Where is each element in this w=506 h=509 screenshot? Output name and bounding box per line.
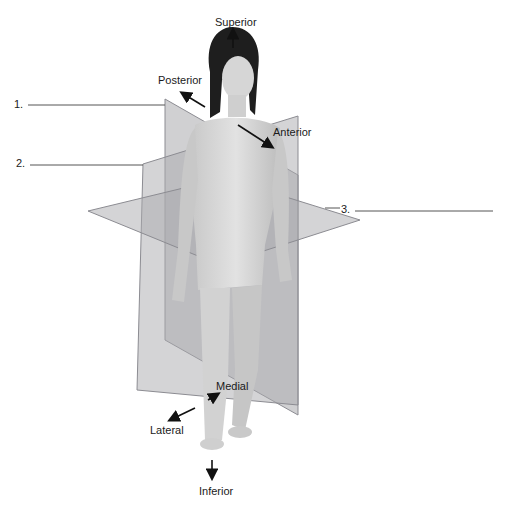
- figure-illustration: [0, 0, 506, 509]
- blank-number-1: 1.: [14, 99, 23, 110]
- lateral-arrow: [170, 408, 195, 420]
- label-anterior: Anterior: [273, 127, 312, 138]
- anatomical-planes-figure: Superior Posterior Anterior Medial Later…: [0, 0, 506, 509]
- label-superior: Superior: [215, 17, 257, 28]
- label-lateral: Lateral: [150, 425, 184, 436]
- blank-number-3: 3.: [341, 204, 350, 215]
- posterior-arrow: [182, 93, 205, 107]
- label-medial: Medial: [216, 381, 248, 392]
- label-inferior: Inferior: [199, 486, 233, 497]
- blank-number-2: 2.: [16, 158, 25, 169]
- label-posterior: Posterior: [158, 75, 202, 86]
